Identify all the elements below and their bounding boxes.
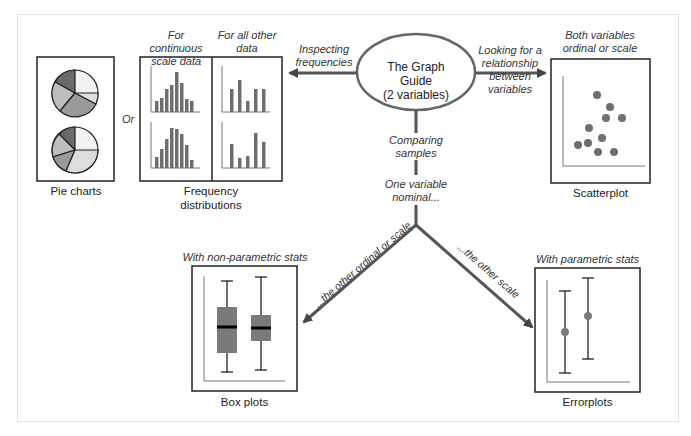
scatter-header: Both variables ordinal or scale xyxy=(545,29,655,55)
comparing-samples-label: Comparing samples xyxy=(376,134,456,160)
freq-caption: Frequency distributions xyxy=(160,184,262,212)
pie-caption: Pie charts xyxy=(30,184,122,198)
one-variable-nominal-label: One variable nominal... xyxy=(371,178,461,204)
boxplot-panel xyxy=(192,266,297,391)
freq-col1-header: For continuous scale data xyxy=(140,29,212,68)
inspecting-frequencies-label: Inspecting frequencies xyxy=(290,43,358,69)
or-label: Or xyxy=(118,113,138,126)
errorplot-caption: Errorplots xyxy=(535,395,640,409)
boxplot-caption: Box plots xyxy=(192,395,297,409)
center-node: The Graph Guide (2 variables) xyxy=(370,60,462,102)
relationship-label: Looking for a relationship between varia… xyxy=(474,44,546,96)
center-subtitle: (2 variables) xyxy=(370,88,462,102)
scatter-caption: Scatterplot xyxy=(551,186,650,200)
errorplot-header: With parametric stats xyxy=(530,253,645,266)
center-title: The Graph Guide xyxy=(370,60,462,88)
boxplot-header: With non-parametric stats xyxy=(180,251,310,264)
branch-left-label: ...the other ordinal or scale xyxy=(311,219,413,310)
freq-col2-header: For all other data xyxy=(212,29,282,55)
scatter-panel xyxy=(551,59,650,183)
